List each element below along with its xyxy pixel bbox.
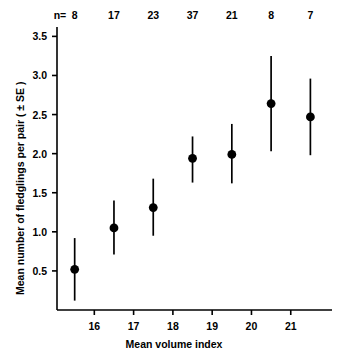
x-axis-tick-label: 21 — [285, 321, 297, 332]
x-axis-tick-label: 16 — [88, 321, 100, 332]
data-point-marker — [188, 154, 197, 163]
sample-size-label: 7 — [307, 10, 313, 21]
chart-figure: 0.51.01.52.02.53.03.51617181920218172337… — [0, 0, 348, 360]
data-point-marker — [70, 265, 79, 274]
x-axis-tick-label: 19 — [206, 321, 218, 332]
y-axis-tick-label: 3.5 — [0, 31, 47, 42]
x-axis-title: Mean volume index — [0, 339, 348, 350]
sample-size-label: 8 — [268, 10, 274, 21]
scatter-plot-canvas — [0, 0, 348, 360]
x-axis-tick-label: 17 — [128, 321, 140, 332]
data-point-marker — [306, 113, 315, 122]
sample-size-label: 23 — [147, 10, 159, 21]
sample-size-prefix-label: n= — [54, 10, 67, 21]
data-point-marker — [110, 224, 119, 233]
sample-size-label: 21 — [226, 10, 238, 21]
y-axis-title: Mean number of fledglings per pair ( ± S… — [15, 82, 26, 295]
data-point-marker — [227, 150, 236, 159]
sample-size-label: 17 — [108, 10, 120, 21]
sample-size-label: 8 — [72, 10, 78, 21]
x-axis-tick-label: 18 — [167, 321, 179, 332]
sample-size-label: 37 — [187, 10, 199, 21]
x-axis-tick-label: 20 — [246, 321, 258, 332]
y-axis-tick-label: 3.0 — [0, 70, 47, 81]
data-point-marker — [149, 203, 158, 212]
data-point-marker — [267, 99, 276, 108]
